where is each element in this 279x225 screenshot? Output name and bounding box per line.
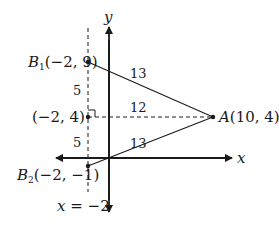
label-B1-coords: (−2, 9) bbox=[45, 53, 98, 71]
diagram-canvas: y x B1(−2, 9) (−2, 4) B2(−2, −1) A(10, 4… bbox=[0, 0, 279, 225]
label-M: (−2, 4) bbox=[32, 108, 85, 126]
segment-B1A bbox=[88, 62, 213, 117]
length-B1M: 5 bbox=[73, 83, 81, 98]
vertical-line-label: x = −2 bbox=[57, 197, 110, 215]
label-A: A(10, 4) bbox=[217, 108, 279, 126]
label-A-letter: A bbox=[217, 108, 230, 126]
point-M bbox=[86, 115, 90, 119]
coordinate-diagram: y x B1(−2, 9) (−2, 4) B2(−2, −1) A(10, 4… bbox=[0, 0, 279, 225]
label-B1: B1(−2, 9) bbox=[27, 53, 98, 72]
y-axis-label: y bbox=[103, 8, 113, 26]
label-A-coords: (10, 4) bbox=[230, 108, 279, 126]
label-B2: B2(−2, −1) bbox=[16, 166, 99, 185]
label-B2-letter: B bbox=[16, 166, 28, 184]
label-B2-coords: (−2, −1) bbox=[34, 166, 99, 184]
length-B1A: 13 bbox=[130, 66, 147, 81]
length-MB2: 5 bbox=[73, 135, 81, 150]
point-A bbox=[211, 115, 215, 119]
vertical-line-label-rest: = −2 bbox=[65, 197, 109, 215]
length-B2A: 13 bbox=[130, 136, 147, 151]
length-MA: 12 bbox=[130, 100, 147, 115]
label-B1-letter: B bbox=[27, 53, 39, 71]
x-axis-label: x bbox=[237, 149, 246, 167]
